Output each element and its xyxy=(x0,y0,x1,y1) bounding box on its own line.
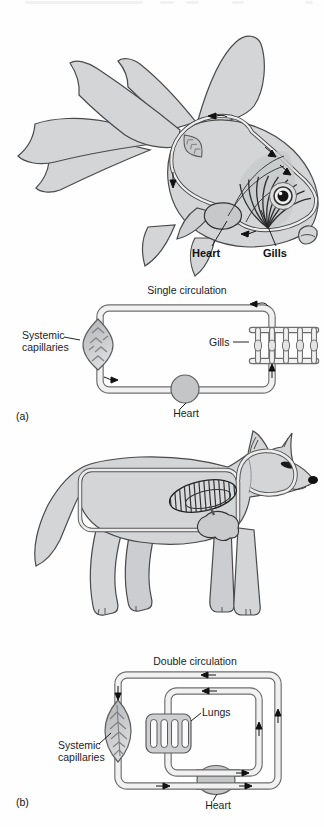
figure-artwork xyxy=(0,0,324,827)
lungs-label-b: Lungs xyxy=(202,706,231,718)
textbook-figure: Heart Gills Single circulation Systemic … xyxy=(0,0,324,827)
fish-dorsal-fin xyxy=(198,36,264,124)
heart-label-a: Heart xyxy=(169,407,203,419)
fox-leg xyxy=(90,530,121,615)
systemic-capillaries-label-b-line1: Systemic xyxy=(58,739,105,751)
single-circulation-title: Single circulation xyxy=(107,284,267,296)
systemic-capillaries-label-b-line2: capillaries xyxy=(58,751,105,763)
fish-fin xyxy=(143,225,175,266)
flow-arrows-a xyxy=(104,301,275,383)
fish-heart-shape xyxy=(204,203,241,229)
fox-leg xyxy=(125,532,154,611)
fish-gills-label: Gills xyxy=(263,247,287,259)
fox-nose xyxy=(308,476,318,484)
gills-shape-a xyxy=(252,330,318,361)
heart-label-b: Heart xyxy=(203,799,233,811)
systemic-capillaries-shape-b xyxy=(105,700,131,762)
gills-label-a: Gills xyxy=(209,336,229,348)
lungs-shape-b xyxy=(146,714,191,753)
systemic-capillaries-label-a: Systemic capillaries xyxy=(22,329,69,353)
panel-a-tag: (a) xyxy=(16,410,29,422)
panel-b-tag: (b) xyxy=(16,796,29,808)
systemic-capillaries-label-a-line2: capillaries xyxy=(22,341,69,353)
fish-eye xyxy=(270,183,297,210)
systemic-capillaries-label-b: Systemic capillaries xyxy=(58,739,105,763)
double-circulation-schematic xyxy=(99,672,281,801)
fish-illustration xyxy=(18,36,318,276)
single-circulation-schematic xyxy=(64,301,318,409)
systemic-capillaries-shape-a xyxy=(83,319,113,370)
fox-illustration xyxy=(35,431,318,615)
systemic-capillaries-label-a-line1: Systemic xyxy=(22,329,69,341)
fox-leg xyxy=(234,528,260,615)
fish-mouth xyxy=(299,226,318,244)
double-circulation-title: Double circulation xyxy=(115,655,275,667)
heart-shape-a xyxy=(171,375,199,403)
fish-heart-label: Heart xyxy=(192,247,220,259)
